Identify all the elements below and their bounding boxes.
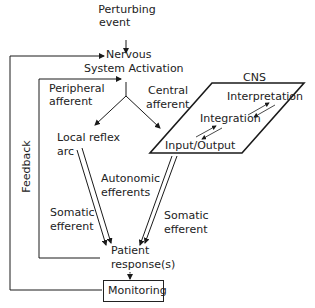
feedback-label: Feedback xyxy=(20,137,33,197)
somatic-left-label: Somatic xyxy=(50,206,95,219)
somatic-right-label: Somatic xyxy=(164,209,209,222)
input-output-label: Input/Output xyxy=(165,139,235,152)
autonomic-efferents-label: efferents xyxy=(101,186,150,199)
patient-response-label: response(s) xyxy=(111,258,175,271)
somatic-right-efferent-label: efferent xyxy=(164,223,207,236)
autonomic-label: Autonomic xyxy=(101,172,160,185)
peripheral-afferent-label: afferent xyxy=(49,95,92,108)
peripheral-afferent-arrow xyxy=(95,96,126,125)
peripheral-label: Peripheral xyxy=(49,82,105,95)
perturbing-line1: Perturbing xyxy=(97,3,157,16)
cns-title: CNS xyxy=(243,71,266,84)
nervous-label: Nervous xyxy=(106,48,151,61)
local-reflex-arc-label: arc xyxy=(57,145,74,158)
monitoring-box: Monitoring xyxy=(103,280,164,302)
perturbing-event-label: Perturbing event xyxy=(97,3,157,29)
central-afferent-label: afferent xyxy=(146,98,189,111)
patient-label: Patient xyxy=(111,244,149,257)
somatic-left-efferent-label: efferent xyxy=(50,220,93,233)
central-label: Central xyxy=(148,84,188,97)
monitoring-label: Monitoring xyxy=(108,284,167,297)
integration-label: Integration xyxy=(200,112,261,125)
system-activation-label: System Activation xyxy=(84,62,184,75)
local-reflex-label: Local reflex xyxy=(57,131,120,144)
interpretation-label: Interpretation xyxy=(227,90,303,103)
perturbing-line2: event xyxy=(97,16,157,29)
